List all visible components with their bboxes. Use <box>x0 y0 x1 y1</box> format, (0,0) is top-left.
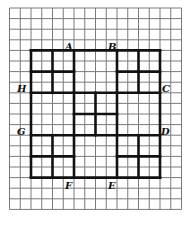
grid-figure: ABCDEFGH <box>0 0 191 245</box>
point-label-e: E <box>107 180 116 191</box>
point-label-d: D <box>160 126 170 137</box>
point-label-a: A <box>64 41 73 52</box>
point-labels: ABCDEFGH <box>16 41 170 191</box>
point-label-c: C <box>162 83 170 94</box>
point-label-f: F <box>64 180 73 191</box>
point-label-g: G <box>17 126 26 137</box>
point-label-b: B <box>107 41 116 52</box>
point-label-h: H <box>16 83 27 94</box>
